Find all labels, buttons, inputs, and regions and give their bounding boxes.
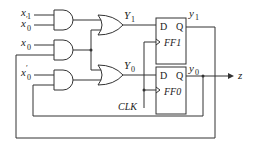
- or-gate-0: [98, 65, 123, 85]
- svg-text:′: ′: [26, 64, 28, 73]
- and-gate-2: [54, 40, 73, 60]
- junction-dot: [90, 49, 93, 52]
- output-z-label: z: [237, 69, 243, 81]
- sequential-circuit-diagram: x 1 x ′ 0 x 0 x ′ 0 Y 1 Y 0 D Q FF1: [0, 0, 257, 144]
- svg-text:1: 1: [195, 13, 199, 22]
- svg-text:x: x: [20, 36, 26, 48]
- output-arrow-icon: [228, 73, 234, 79]
- ff1-name: FF1: [163, 37, 181, 48]
- svg-text:0: 0: [27, 24, 31, 33]
- clock-junction-dot: [143, 89, 146, 92]
- and-gate-3: [54, 70, 73, 90]
- Y0-label: Y 0: [124, 59, 135, 74]
- input-x0-prime-label-b: x ′ 0: [20, 64, 31, 82]
- input-wires: [34, 15, 54, 75]
- svg-text:0: 0: [27, 43, 31, 52]
- Y1-label: Y 1: [124, 9, 135, 24]
- svg-text:y: y: [188, 62, 194, 74]
- ff1-q-label: Q: [176, 21, 184, 32]
- ff1-d-label: D: [160, 21, 167, 32]
- ff0-name: FF0: [163, 86, 181, 97]
- y1-label: y 1: [188, 7, 199, 22]
- feedback-wire-y1: [16, 55, 96, 138]
- svg-text:y: y: [188, 7, 194, 19]
- svg-text:1: 1: [131, 15, 135, 24]
- ff0-d-label: D: [160, 70, 167, 81]
- input-x0-label: x 0: [20, 36, 31, 52]
- and-gate-1: [54, 10, 73, 30]
- y0-label: y 0: [188, 62, 199, 77]
- svg-text:0: 0: [27, 73, 31, 82]
- wire-and2-or-both: [73, 30, 101, 70]
- clk-label: CLK: [118, 101, 138, 112]
- ff0-q-label: Q: [176, 70, 184, 81]
- svg-text:0: 0: [131, 65, 135, 74]
- svg-text:′: ′: [26, 15, 28, 24]
- or-gate-1: [98, 15, 123, 35]
